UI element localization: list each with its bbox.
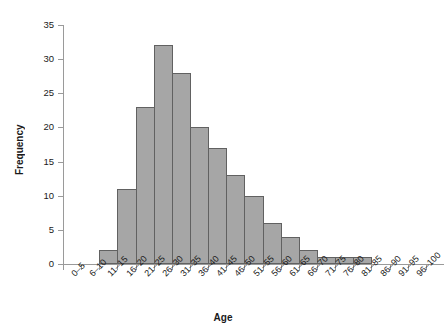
histogram-bar xyxy=(172,73,191,264)
x-axis-title: Age xyxy=(0,312,446,323)
histogram-bar xyxy=(226,175,245,264)
histogram-bar xyxy=(208,148,227,264)
histogram-bar xyxy=(136,107,155,264)
x-axis-tick xyxy=(63,264,64,270)
histogram-bar xyxy=(117,189,137,264)
histogram-chart: Frequency 35302520151050 0–56–1011–1516–… xyxy=(0,0,446,336)
histogram-bar xyxy=(244,196,264,264)
histogram-bar xyxy=(154,45,173,264)
histogram-bar xyxy=(190,127,209,264)
plot-area xyxy=(0,0,446,336)
